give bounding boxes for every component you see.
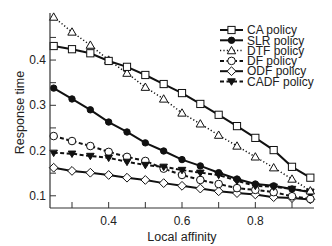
- data-point: [69, 96, 75, 102]
- x-ticks: 0.40.60.8: [72, 202, 292, 228]
- data-point: [214, 131, 222, 138]
- y-tick-label: 0.3: [29, 98, 46, 112]
- data-point: [196, 120, 204, 127]
- data-point: [178, 109, 186, 116]
- data-point: [141, 176, 150, 185]
- data-point: [104, 171, 113, 180]
- data-point: [124, 129, 130, 135]
- legend-marker: [228, 26, 235, 33]
- x-tick-label: 0.8: [247, 214, 264, 228]
- data-point: [159, 179, 168, 188]
- legend-marker: [227, 67, 236, 76]
- x-tick-label: 0.4: [100, 214, 117, 228]
- data-point: [123, 159, 131, 165]
- data-point: [197, 163, 203, 169]
- data-point: [270, 183, 276, 189]
- data-point: [178, 181, 187, 190]
- data-point: [196, 184, 205, 193]
- data-point: [252, 134, 259, 141]
- y-tick-label: 0.2: [29, 144, 46, 158]
- data-point: [49, 13, 57, 20]
- data-point: [269, 164, 277, 171]
- data-point: [289, 186, 295, 192]
- data-point: [234, 176, 240, 182]
- x-tick-label: 0.6: [174, 214, 191, 228]
- data-point: [288, 163, 295, 170]
- data-point: [50, 42, 57, 49]
- data-point: [68, 167, 77, 176]
- data-point: [50, 85, 56, 91]
- data-point: [86, 41, 94, 48]
- data-point: [252, 181, 258, 187]
- data-point: [307, 174, 314, 181]
- y-tick-label: 0.4: [29, 53, 46, 67]
- data-point: [86, 168, 95, 177]
- legend-marker: [228, 37, 234, 43]
- data-point: [123, 63, 130, 70]
- data-point: [105, 148, 113, 156]
- data-point: [160, 148, 166, 154]
- data-point: [141, 83, 149, 90]
- data-point: [123, 173, 132, 182]
- data-point: [105, 119, 111, 125]
- data-point: [87, 50, 94, 57]
- data-point: [68, 28, 76, 35]
- data-point: [179, 156, 185, 162]
- y-axis-title: Response time: [13, 71, 27, 154]
- legend-label: CADF policy: [247, 75, 314, 89]
- data-point: [233, 142, 241, 149]
- data-point: [178, 89, 185, 96]
- data-point: [68, 46, 75, 53]
- data-point: [105, 57, 112, 64]
- response-time-chart: 0.40.60.8 0.10.20.30.4 Local affinity Re…: [0, 0, 332, 246]
- data-point: [215, 170, 221, 176]
- legend: CA policySLR policyDTF policyDF policyOD…: [220, 23, 314, 89]
- data-point: [160, 80, 167, 87]
- data-point: [215, 111, 222, 118]
- data-point: [50, 132, 58, 140]
- data-point: [215, 180, 223, 188]
- data-point: [142, 162, 150, 168]
- legend-item-cadf-policy: CADF policy: [220, 75, 314, 89]
- data-point: [270, 146, 277, 153]
- data-point: [142, 140, 148, 146]
- data-point: [233, 123, 240, 130]
- data-point: [68, 137, 76, 145]
- y-ticks: 0.10.20.30.4: [29, 37, 56, 202]
- data-point: [197, 100, 204, 107]
- x-axis-title: Local affinity: [147, 230, 217, 244]
- data-point: [142, 71, 149, 78]
- legend-marker: [228, 57, 236, 65]
- data-point: [159, 95, 167, 102]
- data-point: [288, 175, 296, 182]
- data-point: [87, 142, 95, 150]
- y-tick-label: 0.1: [29, 189, 46, 203]
- data-point: [87, 107, 93, 113]
- data-point: [251, 153, 259, 160]
